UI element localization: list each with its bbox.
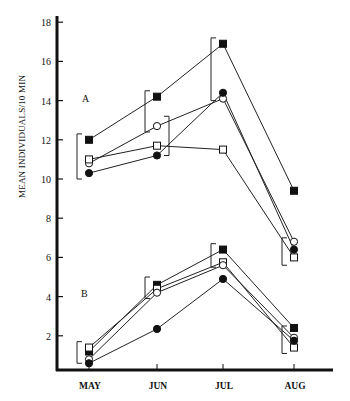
panel-label-b: B [81,288,88,299]
x-tick-label: JUN [149,381,168,391]
data-point-filled-circle [153,325,160,332]
data-point-open-square [86,344,93,351]
plot-area [77,38,298,367]
y-tick-label: 8 [46,213,51,224]
data-point-open-square [291,254,298,261]
range-bracket [77,134,82,179]
data-point-filled-circle [153,152,160,159]
y-axis-label: MEAN INDIVIDUALS/10 MIN [17,75,27,198]
range-bracket [211,38,216,101]
data-point-open-square [220,146,227,153]
range-bracket [77,342,82,364]
data-point-filled-square [86,136,93,143]
data-point-open-circle [153,122,160,129]
data-point-filled-circle [290,246,297,253]
series-line-open-square [89,262,294,347]
series-line-open-circle [89,265,294,359]
data-point-filled-square [291,324,298,331]
panel-a [77,38,298,265]
y-tick-label: 16 [41,56,51,67]
data-point-filled-square [220,40,227,47]
data-point-filled-circle [219,275,226,282]
data-point-open-circle [153,289,160,296]
y-axis-ticks: 24681012141618 [41,17,63,342]
y-tick-label: 14 [41,96,51,107]
y-tick-label: 4 [46,292,51,303]
x-tick-label: MAY [79,381,101,391]
series-line-filled-square [89,250,294,352]
data-point-filled-circle [85,360,92,367]
data-point-open-square [86,156,93,163]
y-tick-label: 10 [41,174,51,185]
series-line-filled-circle [89,93,294,250]
data-point-filled-square [154,93,161,100]
data-point-filled-circle [219,89,226,96]
series-line-open-square [89,146,294,258]
panel-b [77,244,298,367]
range-bracket [282,238,287,265]
line-chart: MEAN INDIVIDUALS/10 MIN 24681012141618 M… [0,0,350,401]
y-tick-label: 6 [46,252,51,263]
data-point-open-circle [290,238,297,245]
data-point-filled-circle [290,337,297,344]
panel-label-a: A [82,93,90,104]
data-point-filled-circle [85,170,92,177]
x-axis-ticks: MAYJUNJULAUG [79,364,306,391]
x-tick-label: JUL [215,381,233,391]
data-point-open-square [291,344,298,351]
x-tick-label: AUG [284,381,306,391]
data-point-filled-square [291,187,298,194]
data-point-filled-square [220,246,227,253]
range-bracket [145,91,150,132]
data-point-open-circle [219,262,226,269]
series-line-filled-square [89,44,294,191]
y-tick-label: 18 [41,17,51,28]
y-tick-label: 2 [46,331,51,342]
y-tick-label: 12 [41,135,51,146]
data-point-open-square [154,142,161,149]
